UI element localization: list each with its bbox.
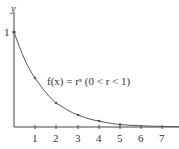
svg-text:4: 4 — [96, 132, 102, 144]
y-tick-label-1: 1 — [4, 26, 10, 38]
svg-text:5: 5 — [117, 132, 123, 144]
y-axis-label: y — [10, 2, 16, 14]
svg-text:2: 2 — [53, 132, 59, 144]
function-label: f(x) = rˣ (0 < r < 1) — [47, 75, 131, 88]
svg-text:3: 3 — [75, 132, 81, 144]
x-tick-labels: 1 2 3 4 5 6 7 — [32, 132, 165, 144]
exponential-decay-chart: y 1 1 2 3 4 5 6 7 f(x) = rˣ (0 < r < 1) — [0, 0, 179, 149]
svg-text:1: 1 — [32, 132, 38, 144]
svg-text:6: 6 — [138, 132, 144, 144]
svg-text:7: 7 — [159, 132, 165, 144]
